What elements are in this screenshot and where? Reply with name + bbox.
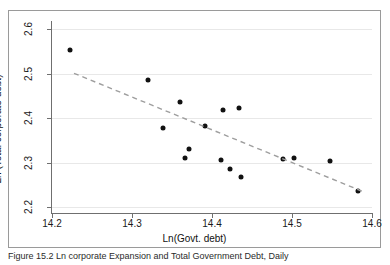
scatter-point	[238, 175, 243, 180]
y-tick-label: 2.5	[23, 61, 34, 87]
figure-root: 2.22.32.42.52.614.214.314.414.514.6 Ln (…	[0, 0, 390, 265]
scatter-point	[356, 188, 361, 193]
x-tick-label: 14.6	[352, 218, 390, 229]
y-axis-label: Ln (Total corporate debt)	[0, 75, 3, 184]
scatter-point	[327, 158, 332, 163]
scatter-point	[291, 155, 296, 160]
scatter-point	[67, 47, 72, 52]
y-tick-mark	[47, 29, 52, 30]
scatter-point	[228, 167, 233, 172]
x-axis-label: Ln(Govt. debt)	[9, 233, 380, 244]
scatter-point	[237, 105, 242, 110]
chart-frame: 2.22.32.42.52.614.214.314.414.514.6 Ln (…	[8, 10, 381, 248]
scatter-point	[218, 158, 223, 163]
scatter-point	[202, 123, 207, 128]
y-tick-mark	[47, 118, 52, 119]
y-tick-mark	[47, 163, 52, 164]
gridline-y	[52, 29, 372, 30]
y-tick-label: 2.3	[23, 150, 34, 176]
y-tick-label: 2.6	[23, 16, 34, 42]
x-tick-label: 14.4	[192, 218, 232, 229]
gridline-y	[52, 118, 372, 119]
scatter-point	[221, 107, 226, 112]
y-tick-label: 2.2	[23, 194, 34, 220]
gridline-y	[52, 207, 372, 208]
figure-caption: Figure 15.2 Ln corporate Expansion and T…	[8, 251, 382, 264]
x-tick-label: 14.3	[112, 218, 152, 229]
y-tick-label: 2.4	[23, 105, 34, 131]
scatter-point	[146, 78, 151, 83]
scatter-point	[281, 157, 286, 162]
gridline-y	[52, 163, 372, 164]
y-tick-mark	[47, 207, 52, 208]
x-tick-label: 14.5	[272, 218, 312, 229]
scatter-point	[161, 126, 166, 131]
scatter-point	[178, 99, 183, 104]
x-tick-label: 14.2	[32, 218, 72, 229]
scatter-point	[186, 146, 191, 151]
gridline-y	[52, 74, 372, 75]
plot-area	[52, 29, 372, 207]
y-tick-mark	[47, 74, 52, 75]
scatter-point	[182, 156, 187, 161]
